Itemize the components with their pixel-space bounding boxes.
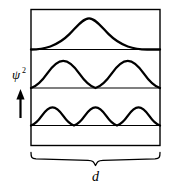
- wave-curve-n3: [31, 107, 160, 125]
- y-axis-label: ψ: [12, 67, 21, 82]
- wave-curve-n2: [31, 61, 160, 88]
- wave-curve-n1: [31, 18, 160, 49]
- width-brace: [31, 153, 160, 166]
- figure-canvas: ψ 2 d: [0, 0, 171, 187]
- box-width-label: d: [92, 169, 100, 184]
- probability-density-figure: ψ 2 d: [0, 0, 171, 187]
- up-arrow-icon: [16, 89, 24, 118]
- y-axis-label-superscript: 2: [22, 66, 26, 75]
